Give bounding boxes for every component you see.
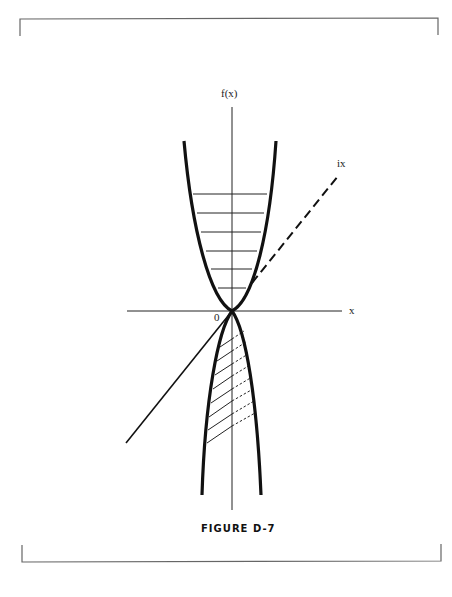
x-axis-label: x <box>349 304 355 316</box>
upward-parabola-real <box>184 141 276 311</box>
figure-caption: FIGURE D-7 <box>201 523 276 534</box>
figure-canvas: f(x) x 0 ix FIGURE D-7 <box>0 0 452 597</box>
dashed-line-label: ix <box>337 157 346 169</box>
y-axis-label: f(x) <box>221 87 238 100</box>
slanted-hatching-imaginary <box>207 331 255 443</box>
origin-label: 0 <box>214 311 220 323</box>
frame-bottom-bracket <box>22 544 441 562</box>
solid-diagonal-line <box>126 311 232 443</box>
frame-top-bracket <box>20 18 438 36</box>
